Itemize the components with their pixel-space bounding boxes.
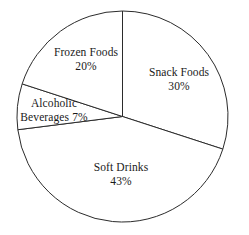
pie-slice-label-line1: Alcoholic — [2, 96, 106, 110]
pie-slice-label-name: Frozen Foods — [36, 46, 136, 60]
pie-slice-label-value: 7% — [72, 111, 88, 123]
pie-slice-label-line2: Beverages 7% — [2, 110, 106, 124]
pie-slice-label-value: 30% — [131, 80, 227, 94]
pie-slice-label-name: Alcoholic — [31, 97, 77, 109]
pie-slice-label-alcoholic-beverages: Alcoholic Beverages 7% — [2, 96, 106, 124]
pie-slice-label-value: 20% — [36, 60, 136, 74]
pie-slice-label-name: Soft Drinks — [72, 161, 170, 175]
pie-slice-label-frozen-foods: Frozen Foods 20% — [36, 46, 136, 73]
pie-slice-label-name-cont: Beverages — [20, 111, 69, 123]
pie-slice-label-name: Snack Foods — [131, 66, 227, 80]
pie-slice-label-snack-foods: Snack Foods 30% — [131, 66, 227, 93]
pie-chart: Snack Foods 30% Soft Drinks 43% Alcoholi… — [0, 0, 249, 235]
pie-slice-label-value: 43% — [72, 175, 170, 189]
pie-slice-label-soft-drinks: Soft Drinks 43% — [72, 161, 170, 188]
